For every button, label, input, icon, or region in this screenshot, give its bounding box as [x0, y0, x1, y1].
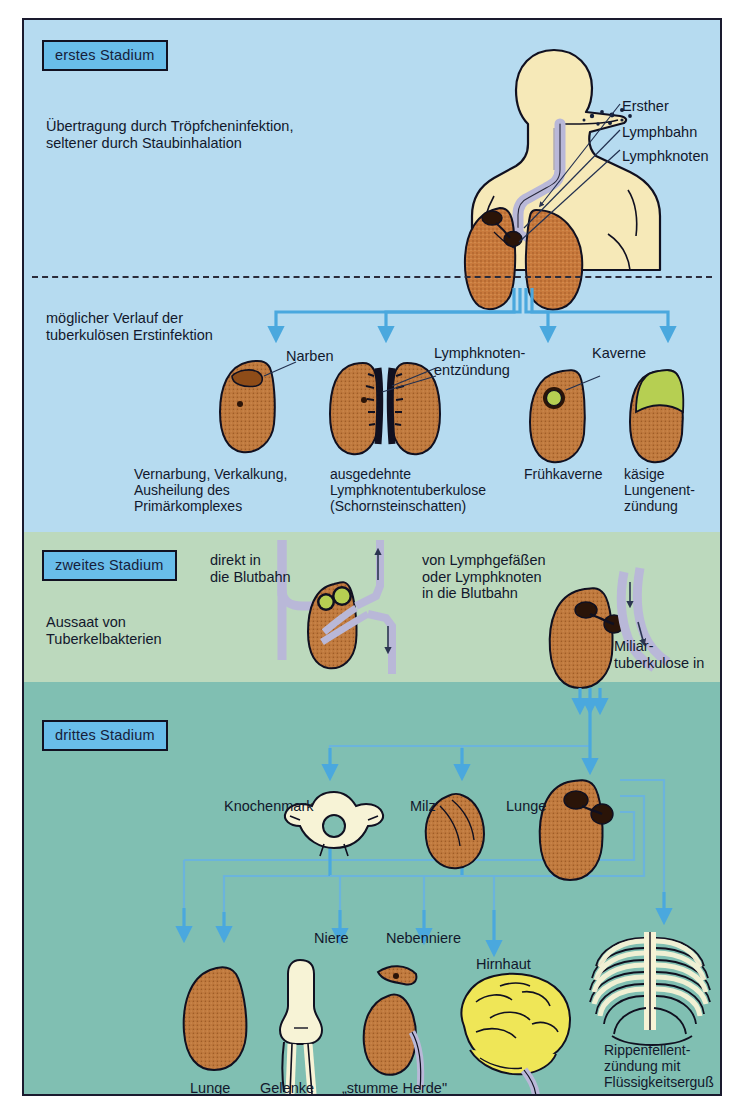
label-lymphknoten: Lymphknoten [622, 148, 709, 165]
stage1b-course-text: möglicher Verlauf der tuberkulösen Ersti… [46, 310, 306, 344]
torso-figure [465, 50, 660, 310]
lung-caseous [630, 370, 683, 462]
label-route-lymph: von Lymphgefäßen oder Lymphknoten in die… [422, 552, 582, 602]
label-kaverne: Kaverne [592, 345, 646, 362]
label-pleurisy: Rippenfellent- zündung mit Flüssigkeitse… [604, 1042, 722, 1090]
lung-node-tb [330, 363, 440, 454]
label-gelenke: Gelenke [260, 1080, 314, 1096]
label-route-direct: direkt in die Blutbahn [210, 552, 320, 585]
label-ersther: Ersther [622, 98, 669, 115]
caption-caseous-pneumonia: käsige Lungenent- zündung [624, 466, 714, 514]
stage2-title: zweites Stadium [42, 550, 177, 581]
label-stumme-herde: „stumme Herde" [342, 1080, 447, 1096]
label-knochenmark: Knochenmark [224, 798, 313, 815]
organ-kidney [364, 966, 421, 1090]
organ-joint [280, 960, 322, 1094]
label-milz: Milz [410, 798, 436, 815]
lung-scarred [220, 361, 296, 452]
label-narben: Narben [286, 348, 334, 365]
label-lunge-row1: Lunge [506, 798, 546, 815]
label-lymphknotenentzuendung: Lymphknoten- entzündung [434, 345, 525, 378]
stage1-title: erstes Stadium [42, 40, 168, 71]
stage2-dissemination-text: Aussaat von Tuberkelbakterien [46, 614, 246, 648]
poster-frame: erstes Stadium Übertragung durch Tröpfch… [22, 18, 722, 1096]
stage1-transmission-text: Übertragung durch Tröpfcheninfektion, se… [46, 118, 336, 152]
caption-primary-complex: Vernarbung, Verkalkung, Ausheilung des P… [134, 466, 334, 514]
lung-early-cavity [530, 370, 600, 462]
label-miliary-tb: Miliar- tuberkulose in [614, 638, 722, 671]
caption-node-tb: ausgedehnte Lymphknotentuberkulose (Scho… [330, 466, 540, 514]
stage3-title: drittes Stadium [42, 720, 168, 751]
label-niere: Niere [314, 930, 349, 947]
label-lunge-row3: Lunge [190, 1080, 230, 1096]
stage1-divider [32, 276, 712, 278]
label-lymphbahn: Lymphbahn [622, 124, 697, 141]
organ-ribcage [590, 932, 710, 1045]
organ-lung-row3 [184, 967, 247, 1070]
label-hirnhaut: Hirnhaut [476, 956, 531, 973]
organ-brain [462, 974, 570, 1096]
organ-lung-row1 [540, 780, 613, 880]
label-nebenniere: Nebenniere [386, 930, 461, 947]
